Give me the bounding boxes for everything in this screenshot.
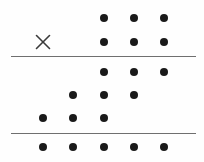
cross-mark-icon: [34, 33, 52, 51]
data-point-dot: [130, 143, 138, 151]
data-point-dot: [130, 38, 138, 46]
data-point-dot: [100, 114, 108, 122]
data-point-dot: [100, 14, 108, 22]
data-point-dot: [100, 91, 108, 99]
dot-diagram-figure: [0, 0, 204, 162]
data-point-dot: [130, 68, 138, 76]
data-point-dot: [69, 143, 77, 151]
data-point-dot: [160, 68, 168, 76]
data-point-dot: [39, 114, 47, 122]
data-point-dot: [160, 14, 168, 22]
data-point-dot: [160, 38, 168, 46]
upper-rule: [11, 56, 196, 57]
lower-rule: [11, 133, 196, 134]
data-point-dot: [160, 143, 168, 151]
data-point-dot: [39, 143, 47, 151]
data-point-dot: [130, 91, 138, 99]
data-point-dot: [100, 68, 108, 76]
data-point-dot: [69, 114, 77, 122]
data-point-dot: [100, 143, 108, 151]
data-point-dot: [130, 14, 138, 22]
data-point-dot: [100, 38, 108, 46]
data-point-dot: [69, 91, 77, 99]
